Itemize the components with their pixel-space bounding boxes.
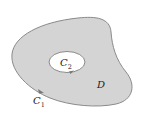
region-diagram: C2 D C1: [0, 0, 142, 119]
c1-label: C1: [33, 95, 45, 109]
region-d-label: D: [96, 79, 105, 90]
